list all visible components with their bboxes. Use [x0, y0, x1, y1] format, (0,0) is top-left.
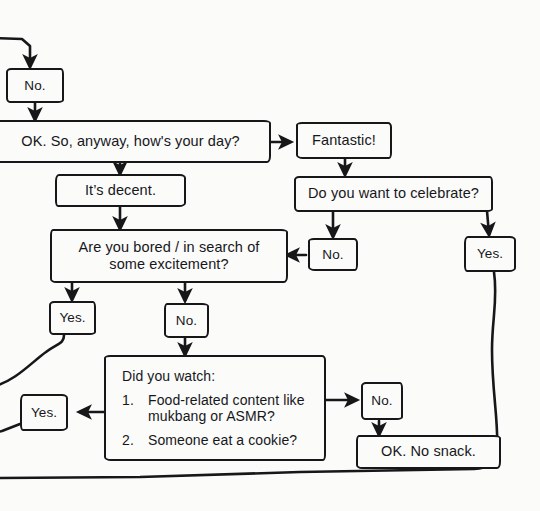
list-item-text: Food-related content likemukbang or ASMR…	[148, 392, 305, 426]
node-yes-celebrate-label: Yes.	[477, 246, 503, 262]
node-its-decent[interactable]: It’s decent.	[55, 174, 186, 207]
node-no-top[interactable]: No.	[6, 68, 64, 103]
node-no-watch-label: No.	[371, 393, 392, 409]
wire-yes-watch-offpage	[0, 424, 20, 433]
node-no-top-label: No.	[24, 78, 45, 94]
node-ok-no-snack[interactable]: OK. No snack.	[356, 435, 501, 469]
node-celebrate-label: Do you want to celebrate?	[308, 185, 479, 202]
node-no-celebrate-label: No.	[322, 247, 343, 263]
node-no-bored[interactable]: No.	[164, 303, 209, 338]
node-yes-bored-label: Yes.	[59, 310, 85, 326]
list-item-text: Someone eat a cookie?	[148, 432, 305, 449]
did-you-watch-lead: Did you watch:	[122, 368, 215, 385]
node-yes-watch[interactable]: Yes.	[20, 394, 68, 431]
node-are-you-bored-line1: Are you bored / in search of	[79, 239, 260, 256]
flowchart-canvas: No. OK. So, anyway, how's your day? Fant…	[0, 0, 540, 511]
node-yes-celebrate[interactable]: Yes.	[464, 236, 516, 272]
node-how-is-your-day[interactable]: OK. So, anyway, how's your day?	[0, 120, 271, 163]
list-item: 2. Someone eat a cookie?	[122, 432, 305, 449]
wire-yes-bored-offpage	[0, 335, 64, 386]
node-yes-bored[interactable]: Yes.	[49, 301, 96, 335]
node-do-you-want-to-celebrate[interactable]: Do you want to celebrate?	[294, 176, 493, 212]
node-its-decent-label: It’s decent.	[85, 182, 156, 199]
node-no-bored-label: No.	[176, 313, 197, 329]
node-no-watch[interactable]: No.	[361, 382, 403, 420]
list-item-number: 1.	[122, 392, 148, 426]
node-fantastic[interactable]: Fantastic!	[296, 122, 392, 159]
node-are-you-bored-line2: some excitement?	[109, 256, 228, 273]
list-item: 1. Food-related content likemukbang or A…	[122, 392, 305, 426]
node-yes-watch-label: Yes.	[31, 405, 57, 421]
node-fantastic-label: Fantastic!	[312, 132, 376, 149]
node-did-you-watch[interactable]: Did you watch: 1. Food-related content l…	[104, 355, 326, 461]
node-no-celebrate[interactable]: No.	[308, 238, 358, 271]
list-item-number: 2.	[122, 432, 148, 449]
wire-entry-to-no-top	[0, 38, 30, 66]
node-how-is-your-day-label: OK. So, anyway, how's your day?	[21, 133, 239, 150]
node-ok-no-snack-label: OK. No snack.	[381, 443, 476, 460]
did-you-watch-list: 1. Food-related content likemukbang or A…	[122, 392, 305, 449]
wire-celebrate-to-yes	[487, 211, 489, 234]
node-are-you-bored[interactable]: Are you bored / in search of some excite…	[50, 229, 288, 283]
